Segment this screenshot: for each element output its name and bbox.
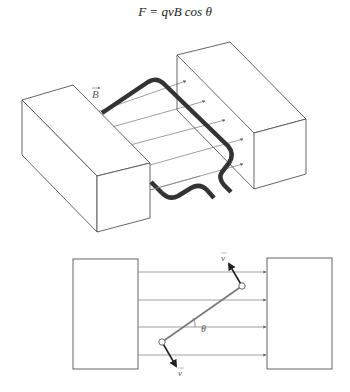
angle-label: θ	[201, 323, 206, 334]
right-pole	[267, 258, 332, 369]
velocity-label-top: v	[221, 253, 225, 263]
top-figure: B	[22, 42, 306, 232]
field-line	[112, 101, 205, 127]
loop-end-bottom	[159, 339, 165, 345]
current-loop-coil-lower	[151, 182, 214, 198]
velocity-vector-bottom	[162, 342, 176, 366]
left-pole	[73, 259, 138, 369]
magnetic-force-diagram: B θ v v	[0, 0, 350, 392]
velocity-vector-top	[229, 264, 242, 286]
velocity-label-bottom: v	[178, 368, 182, 378]
loop-end-top	[239, 283, 245, 289]
field-label-b: B	[92, 88, 99, 100]
field-line	[130, 120, 225, 145]
bottom-figure: θ v v	[73, 253, 332, 378]
left-magnet	[22, 85, 150, 232]
